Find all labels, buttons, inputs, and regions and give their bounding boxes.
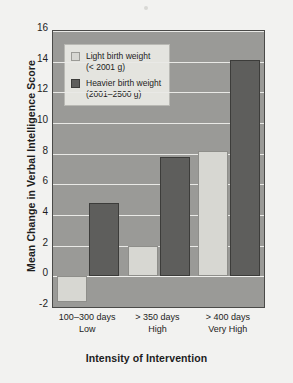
y-tick-label-0: 0 — [24, 267, 48, 278]
plot-area: Light birth weight (< 2001 g) Heavier bi… — [52, 30, 265, 308]
bar-series1-group2 — [128, 246, 158, 277]
y-tick-label--2: -2 — [24, 298, 48, 309]
bar-series2-group2 — [160, 157, 190, 277]
gridline-16 — [53, 31, 264, 32]
x-tick-label-group1-line1: 100–300 days — [59, 312, 116, 322]
bar-series2-group3 — [230, 60, 260, 276]
chart-figure: Mean Change in Verbal Intelligence Score… — [0, 0, 293, 383]
y-tick-label-4: 4 — [24, 206, 48, 217]
chart-legend: Light birth weight (< 2001 g) Heavier bi… — [64, 44, 170, 106]
x-tick-label-group3: > 400 daysVery High — [193, 312, 263, 335]
y-tick-label-12: 12 — [24, 83, 48, 94]
legend-swatch-heavier-icon — [71, 79, 80, 88]
x-axis-tick-labels: 100–300 daysLow> 350 daysHigh> 400 daysV… — [52, 312, 265, 342]
bar-series2-group1 — [89, 203, 119, 277]
x-tick-label-group3-line2: Very High — [193, 324, 263, 336]
x-tick-label-group2-line2: High — [122, 324, 192, 336]
bar-series1-group3 — [198, 151, 228, 277]
x-axis-title: Intensity of Intervention — [0, 352, 293, 364]
scan-artifact-speck — [144, 6, 148, 10]
y-tick-label-6: 6 — [24, 175, 48, 186]
x-tick-label-group1-line2: Low — [52, 324, 122, 336]
y-tick-label-2: 2 — [24, 236, 48, 247]
legend-label-light-line2: (< 2001 g) — [86, 62, 150, 73]
bar-series1-group1 — [57, 276, 87, 302]
legend-label-heavier: Heavier birth weight (2001–2500 g) — [86, 78, 161, 99]
y-axis-tick-labels: -20246810121416 — [24, 26, 48, 308]
legend-label-heavier-line2: (2001–2500 g) — [86, 89, 161, 100]
legend-label-light-line1: Light birth weight — [86, 51, 150, 61]
y-tick-label-14: 14 — [24, 52, 48, 63]
y-tick-label-8: 8 — [24, 144, 48, 155]
x-tick-label-group3-line1: > 400 days — [206, 312, 250, 322]
x-tick-label-group2-line1: > 350 days — [135, 312, 179, 322]
y-tick-label-10: 10 — [24, 114, 48, 125]
x-tick-label-group2: > 350 daysHigh — [122, 312, 192, 335]
legend-label-heavier-line1: Heavier birth weight — [86, 78, 161, 88]
x-tick-label-group1: 100–300 daysLow — [52, 312, 122, 335]
legend-item-heavier: Heavier birth weight (2001–2500 g) — [71, 78, 161, 99]
legend-swatch-light-icon — [71, 52, 80, 61]
y-tick-label-16: 16 — [24, 22, 48, 33]
